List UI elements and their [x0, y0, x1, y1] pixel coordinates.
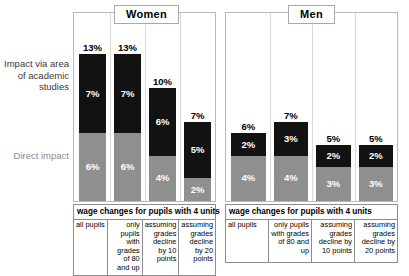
bar-total-label: 5%: [312, 134, 355, 144]
table-cell-category: assuming grades decline by 10 points: [311, 220, 354, 262]
bar-segment-label-direct: 4%: [274, 173, 309, 183]
bar-total-label: 7%: [270, 111, 313, 121]
table-header-men: wage changes for pupils with 4 units: [226, 205, 397, 220]
bar-segment-direct-impact[interactable]: 3%: [316, 167, 351, 201]
bar-segment-academic-impact[interactable]: 2%: [359, 145, 394, 168]
bar-segment-academic-impact[interactable]: 2%: [231, 133, 266, 156]
bar-segment-direct-impact[interactable]: 4%: [231, 156, 266, 201]
stacked-bar[interactable]: 7%6%: [79, 54, 106, 201]
table-header-women: wage changes for pupils with 4 units: [74, 205, 215, 220]
chart-panel-women: Women 7%6%13%7%6%13%6%4%10%5%2%7%: [73, 12, 216, 202]
plot-area-men: 2%4%6%3%4%7%2%3%5%2%3%5%: [226, 13, 397, 201]
bar-segment-direct-impact[interactable]: 4%: [149, 156, 176, 201]
bar-total-label: 5%: [355, 134, 398, 144]
bar-column[interactable]: 7%6%13%: [75, 13, 110, 201]
table-row-men: all pupilsonly pupils with grades of 80 …: [226, 220, 397, 262]
legend-label-academic-impact: Impact via area of academic studies: [1, 58, 69, 93]
stacked-bar[interactable]: 2%4%: [231, 133, 266, 201]
category-table-men: wage changes for pupils with 4 units all…: [225, 204, 398, 263]
table-cell-category: only pupils with grades of 80 and up: [107, 220, 141, 275]
bar-segment-label-academic: 2%: [231, 139, 266, 149]
bar-column[interactable]: 2%3%5%: [312, 13, 355, 201]
bar-segment-label-direct: 6%: [79, 162, 106, 172]
table-row-women: all pupilsonly pupils with grades of 80 …: [74, 220, 215, 275]
bar-segment-label-academic: 6%: [149, 117, 176, 127]
panel-title-women: Women: [114, 5, 179, 24]
bar-segment-label-direct: 4%: [231, 173, 266, 183]
category-table-women: wage changes for pupils with 4 units all…: [73, 204, 216, 276]
bar-column[interactable]: 3%4%7%: [270, 13, 313, 201]
stacked-bar[interactable]: 2%3%: [359, 145, 394, 202]
table-cell-category: assuming grades decline by 20 points: [354, 220, 397, 262]
table-cell-category: all pupils: [74, 220, 107, 275]
plot-area-women: 7%6%13%7%6%13%6%4%10%5%2%7%: [74, 13, 215, 201]
bar-segment-label-academic: 5%: [184, 145, 211, 155]
stacked-bar[interactable]: 6%4%: [149, 88, 176, 201]
bar-total-label: 13%: [75, 43, 110, 53]
table-cell-category: all pupils: [226, 220, 268, 262]
bar-segment-academic-impact[interactable]: 5%: [184, 122, 211, 179]
table-cell-category: assuming grades decline by 20 points: [178, 220, 215, 275]
axis-legend: Impact via area of academic studies Dire…: [0, 0, 72, 200]
bar-segment-label-academic: 3%: [274, 134, 309, 144]
table-cell-category: assuming grades decline by 10 points: [142, 220, 179, 275]
bar-segment-label-academic: 2%: [359, 151, 394, 161]
stacked-bar[interactable]: 3%4%: [274, 122, 309, 201]
bar-total-label: 10%: [145, 77, 180, 87]
bar-segment-direct-impact[interactable]: 4%: [274, 156, 309, 201]
bar-segment-label-direct: 3%: [359, 179, 394, 189]
bar-segment-direct-impact[interactable]: 2%: [184, 178, 211, 201]
bar-segment-label-academic: 7%: [79, 88, 106, 98]
bar-total-label: 7%: [180, 111, 215, 121]
bar-segment-academic-impact[interactable]: 7%: [114, 54, 141, 133]
bar-segment-direct-impact[interactable]: 6%: [79, 133, 106, 201]
bar-segment-academic-impact[interactable]: 2%: [316, 145, 351, 168]
bar-segment-label-direct: 4%: [149, 173, 176, 183]
bar-segment-label-direct: 3%: [316, 179, 351, 189]
bar-total-label: 6%: [227, 122, 270, 132]
bar-segment-label-direct: 6%: [114, 162, 141, 172]
bar-segment-label-direct: 2%: [184, 185, 211, 195]
bar-segment-academic-impact[interactable]: 3%: [274, 122, 309, 156]
legend-label-direct-impact: Direct impact: [1, 150, 69, 162]
panel-title-men: Men: [288, 5, 335, 24]
table-cell-category: only pupils with grades of 80 and up: [268, 220, 311, 262]
bar-segment-label-academic: 7%: [114, 88, 141, 98]
bar-column[interactable]: 7%6%13%: [110, 13, 145, 201]
bar-segment-label-academic: 2%: [316, 151, 351, 161]
stacked-bar[interactable]: 5%2%: [184, 122, 211, 201]
bar-segment-direct-impact[interactable]: 6%: [114, 133, 141, 201]
bar-column[interactable]: 5%2%7%: [180, 13, 215, 201]
stacked-bar[interactable]: 2%3%: [316, 145, 351, 202]
bar-segment-direct-impact[interactable]: 3%: [359, 167, 394, 201]
bar-segment-academic-impact[interactable]: 7%: [79, 54, 106, 133]
bar-column[interactable]: 2%4%6%: [227, 13, 270, 201]
stacked-bar[interactable]: 7%6%: [114, 54, 141, 201]
bar-column[interactable]: 6%4%10%: [145, 13, 180, 201]
bar-segment-academic-impact[interactable]: 6%: [149, 88, 176, 156]
bar-total-label: 13%: [110, 43, 145, 53]
chart-panel-men: Men 2%4%6%3%4%7%2%3%5%2%3%5%: [225, 12, 398, 202]
bar-column[interactable]: 2%3%5%: [355, 13, 398, 201]
